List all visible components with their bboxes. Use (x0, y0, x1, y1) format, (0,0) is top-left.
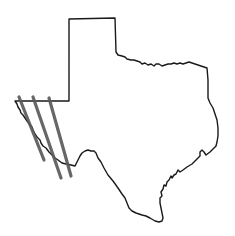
texas-map (0, 0, 235, 236)
overlay-line-3 (49, 98, 71, 176)
texas-state-outline (15, 18, 218, 222)
overlay-line-1 (19, 97, 44, 160)
